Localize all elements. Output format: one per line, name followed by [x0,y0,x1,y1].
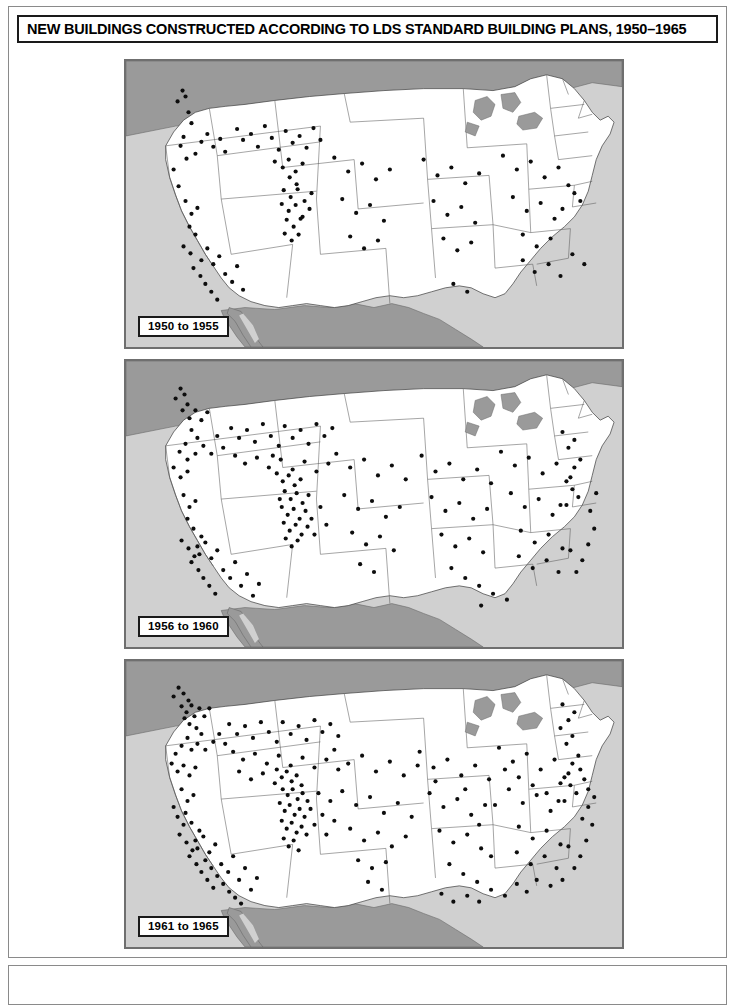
page-title: NEW BUILDINGS CONSTRUCTED ACCORDING TO L… [19,21,686,37]
map-panel-1950-1955: 1950 to 1955 [124,59,624,349]
map-svg-2 [126,361,622,647]
map-panel-1956-1960: 1956 to 1960 [124,359,624,649]
map-svg-3 [126,661,622,947]
era-label-2: 1956 to 1960 [138,616,229,637]
era-label-1: 1950 to 1955 [138,316,229,337]
era-label-3: 1961 to 1965 [138,916,229,937]
figure-title-box: NEW BUILDINGS CONSTRUCTED ACCORDING TO L… [17,15,718,43]
footer-frame [8,965,727,1005]
map-svg-1 [126,61,622,347]
figure-frame: NEW BUILDINGS CONSTRUCTED ACCORDING TO L… [8,6,727,958]
map-panel-1961-1965: 1961 to 1965 [124,659,624,949]
